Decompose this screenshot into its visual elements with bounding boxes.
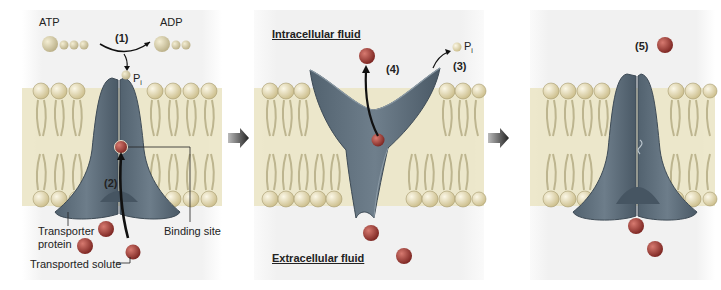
intracellular-fluid-label: Intracellular fluid (272, 28, 361, 40)
step-5-label: (5) (635, 40, 648, 52)
binding-site-label: Binding site (164, 225, 221, 237)
panel-1-illustration (0, 0, 226, 290)
panel-step-5: (5) (510, 0, 721, 290)
right-arrow-icon (488, 128, 510, 148)
transported-solute-label: Transported solute (30, 258, 121, 270)
panel-step-3-4: Intracellular fluid Extracellular fluid … (248, 0, 488, 290)
phosphate-sub: i (140, 79, 142, 86)
panel-2-illustration (248, 0, 488, 290)
phosphate-label: Pi (133, 72, 142, 89)
step-2-label: (2) (104, 177, 117, 189)
panel-step-1-2: ATP ADP (1) Pi (2) Binding site Transpor… (0, 0, 226, 290)
panel-3-illustration (510, 0, 721, 290)
right-arrow-icon (228, 128, 250, 148)
step-3-label: (3) (453, 60, 466, 72)
transporter-protein-label-2: protein (38, 238, 72, 250)
step-4-label: (4) (386, 63, 399, 75)
step-1-label: (1) (115, 32, 128, 44)
phosphate-sub: i (471, 47, 473, 54)
extracellular-fluid-label: Extracellular fluid (272, 252, 364, 264)
adp-label: ADP (160, 16, 183, 28)
transporter-protein-label-1: Transporter (38, 225, 94, 237)
phosphate-label-2: Pi (464, 40, 473, 57)
atp-label: ATP (39, 16, 60, 28)
